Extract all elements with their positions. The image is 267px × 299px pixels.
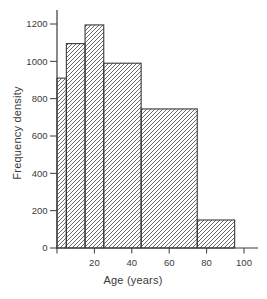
x-tick-label: 40	[127, 257, 138, 268]
histogram-bar	[66, 44, 85, 248]
x-tick-label: 60	[164, 257, 175, 268]
histogram-canvas: 02004006008001000120020406080100	[0, 0, 267, 299]
x-tick-label: 100	[236, 257, 252, 268]
y-tick-label: 400	[32, 168, 48, 179]
y-axis-title: Frequency density	[11, 86, 23, 179]
histogram-bar	[197, 220, 234, 248]
histogram-bar	[104, 63, 141, 248]
histogram-figure: 02004006008001000120020406080100 Age (ye…	[0, 0, 267, 299]
histogram-bar	[85, 25, 104, 248]
y-tick-label: 0	[42, 242, 47, 253]
histogram-bar	[57, 78, 66, 248]
y-tick-label: 1000	[26, 56, 47, 67]
x-tick-label: 20	[89, 257, 100, 268]
histogram-bar	[141, 109, 197, 248]
x-axis-title: Age (years)	[103, 274, 162, 286]
y-tick-label: 200	[32, 205, 48, 216]
x-tick-label: 80	[201, 257, 212, 268]
y-tick-label: 600	[32, 130, 48, 141]
y-tick-label: 1200	[26, 18, 47, 29]
y-tick-label: 800	[32, 93, 48, 104]
